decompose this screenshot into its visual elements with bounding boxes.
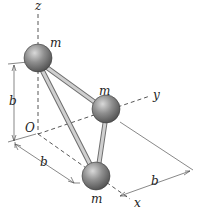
rigid-body-diagram: z y x O m m m b b b	[0, 0, 198, 212]
y-axis-label: y	[152, 88, 160, 102]
z-axis-label: z	[34, 0, 42, 13]
mass-middle	[92, 95, 120, 123]
mass-top	[24, 44, 52, 72]
dimension-z-label: b	[9, 94, 17, 108]
dimension-x-label: b	[40, 155, 48, 169]
x-axis	[38, 134, 130, 199]
mass-bottom	[82, 162, 110, 190]
x-axis-label: x	[134, 196, 141, 210]
mass-middle-label: m	[99, 84, 110, 98]
dimension-y-label: b	[151, 174, 159, 188]
mass-top-label: m	[50, 36, 61, 50]
mass-bottom-label: m	[91, 192, 102, 206]
origin-label: O	[25, 121, 35, 135]
